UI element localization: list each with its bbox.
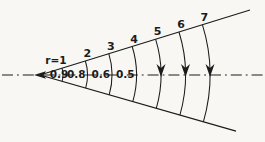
arc-number-label: 7 [201, 11, 209, 24]
arc-number-label: 2 [84, 47, 92, 60]
arc-number-label: 3 [107, 40, 115, 53]
fan-diagram: r=10.920.830.640.5567 [0, 0, 265, 142]
radius-value-label: 0.9 [50, 68, 69, 80]
arc-number-label: 4 [130, 33, 138, 46]
radius-value-label: 0.6 [91, 68, 110, 80]
arc-number-label: 6 [177, 18, 185, 31]
upper-ray [40, 10, 250, 75]
radius-value-label: 0.5 [116, 68, 135, 80]
r-equals-label: r=1 [45, 54, 66, 66]
radius-value-label: 0.8 [67, 68, 86, 80]
arc-number-label: 5 [154, 25, 162, 38]
diagram-figure: r=10.920.830.640.5567 [0, 0, 265, 142]
lower-ray [40, 75, 236, 131]
